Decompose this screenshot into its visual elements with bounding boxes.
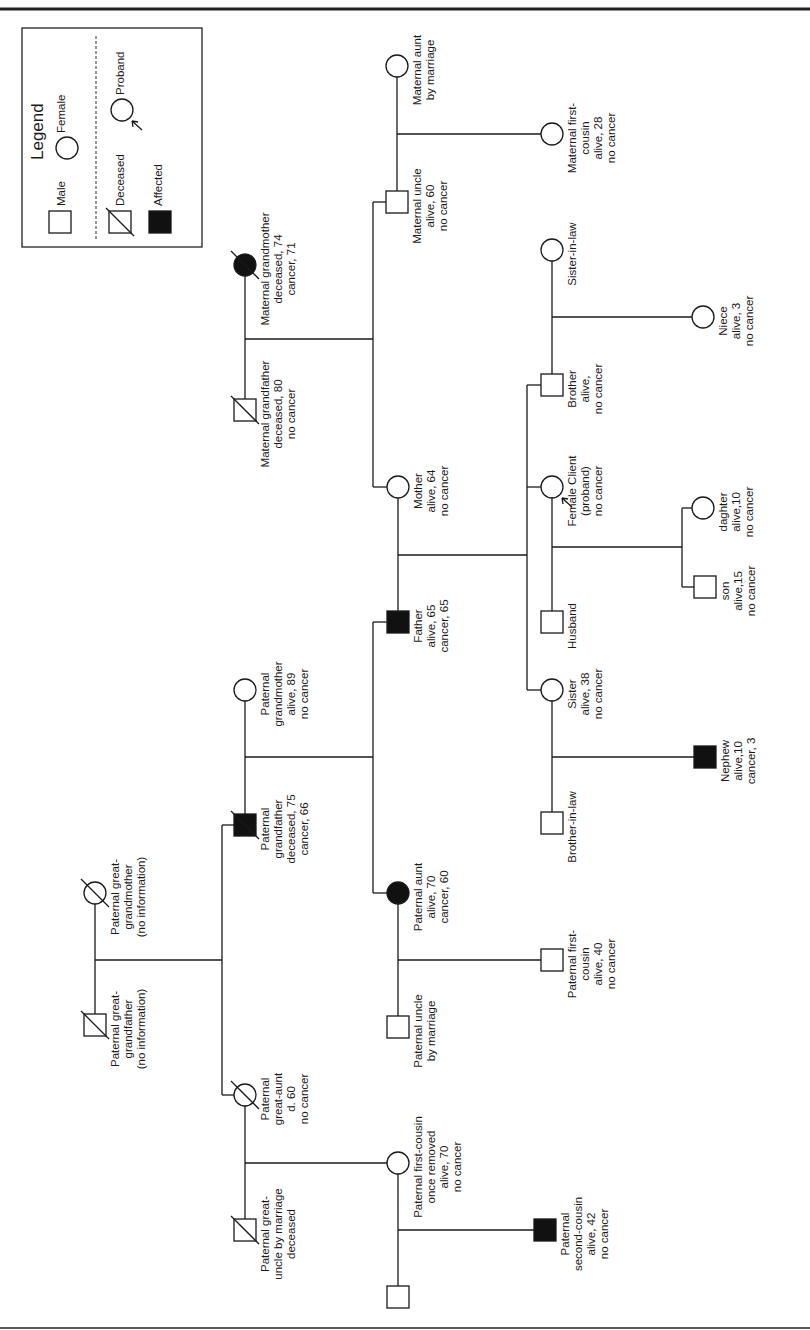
individual-husband: Husband (541, 603, 578, 649)
individual-mgm: Maternal grandmotherdeceased, 74cancer, … (231, 212, 297, 325)
individual-label: Nephewalive,10cancer, 3 (719, 738, 757, 785)
individual-psc: Paternalsecond-cousinalive, 42no cancer (534, 1197, 610, 1271)
individual-label: Paternal auntalive, 70cancer, 60 (412, 862, 450, 931)
individual-pga: Paternalgreat-auntd. 60no cancer (231, 1072, 310, 1125)
individual-proband: Female Client(proband)no cancer (541, 455, 604, 527)
individual-label: Maternal auntby marriage (411, 34, 436, 105)
individual-son: sonalive,15no cancer (694, 566, 757, 617)
individual-mother: Motheralive, 64no cancer (387, 466, 450, 517)
individual-pgf: Paternalgrandfatherdeceased, 75cancer, 6… (231, 794, 310, 863)
male-symbol-icon (541, 374, 563, 396)
pedigree-diagram: Legend Male Female Deceased Proband Affe… (0, 0, 810, 1330)
individual-label: daghteralive,10no cancer (717, 487, 755, 538)
individual-nephew: Nephewalive,10cancer, 3 (694, 738, 757, 785)
individual-label: Paternal first-cousinalive, 40no cancer (566, 930, 617, 999)
individual-label: Paternal great-grandfather(no informatio… (109, 989, 147, 1070)
individual-pum: Paternal uncleby marriage (387, 994, 437, 1068)
individual-mam: Maternal auntby marriage (386, 34, 436, 105)
female-symbol-icon (541, 239, 563, 261)
legend-male-label: Male (55, 181, 67, 206)
female-affected-symbol-icon (387, 882, 409, 904)
pedigree-connectors (95, 66, 705, 1297)
individual-pgu: Paternal great-uncle by marriagedeceased (231, 1188, 297, 1279)
individual-label: Brotheralive,no cancer (566, 364, 604, 415)
female-symbol-icon (541, 679, 563, 701)
female-symbol-icon (386, 55, 408, 77)
individual-label: Maternal first-cousinalive, 28no cancer (566, 103, 617, 173)
individual-label: Paternal great-uncle by marriagedeceased (259, 1188, 297, 1279)
individual-mfc: Maternal first-cousinalive, 28no cancer (541, 103, 617, 173)
individual-label: Paternalgrandmotheralive, 89no cancer (259, 661, 310, 726)
individual-label: Brother-in-law (566, 791, 578, 863)
legend-affected-label: Affected (152, 164, 164, 206)
legend: Legend Male Female Deceased Proband Affe… (22, 28, 202, 247)
individual-label: Motheralive, 64no cancer (412, 466, 450, 517)
male-symbol-icon (541, 949, 563, 971)
individual-label: Maternal grandfatherdeceased, 80no cance… (259, 360, 297, 467)
individual-label: Sisteralive, 38no cancer (566, 669, 604, 720)
male-symbol-icon (49, 211, 71, 233)
individual-label: Paternal first-cousinonce removedalive, … (412, 1116, 463, 1218)
male-symbol-icon (387, 1016, 409, 1038)
male-affected-symbol-icon (387, 611, 409, 633)
individual-brother: Brotheralive,no cancer (541, 364, 604, 415)
individual-label: sonalive,15no cancer (719, 566, 757, 617)
individual-label: Paternal great-grandmother(no informatio… (109, 857, 147, 938)
female-symbol-icon (56, 137, 78, 159)
male-symbol-icon (387, 1286, 409, 1308)
male-symbol-icon (541, 611, 563, 633)
legend-proband-label: Proband (114, 52, 126, 95)
individual-label: Niecealive, 3no cancer (717, 296, 755, 347)
individual-niece: Niecealive, 3no cancer (692, 296, 755, 347)
female-symbol-icon (541, 476, 563, 498)
male-symbol-icon (386, 191, 408, 213)
male-symbol-icon (694, 576, 716, 598)
female-symbol-icon (692, 306, 714, 328)
male-affected-symbol-icon (534, 1219, 556, 1241)
female-symbol-icon (387, 1152, 409, 1174)
female-symbol-icon (387, 476, 409, 498)
affected-symbol-icon (149, 211, 171, 233)
individual-label: Female Client(proband)no cancer (566, 455, 604, 527)
individual-mgf: Maternal grandfatherdeceased, 80no cance… (231, 360, 297, 467)
individual-label: Maternal unclealive, 60no cancer (411, 168, 449, 243)
legend-deceased-label: Deceased (114, 154, 126, 206)
individual-sil: Sister-in-law (541, 222, 578, 286)
legend-female-label: Female (55, 95, 67, 133)
individual-pggm: Paternal great-grandmother(no informatio… (81, 857, 147, 938)
male-affected-symbol-icon (694, 746, 716, 768)
individual-father: Fatheralive, 65cancer, 65 (387, 599, 450, 652)
individual-sister: Sisteralive, 38no cancer (541, 669, 604, 720)
male-symbol-icon (541, 812, 563, 834)
female-symbol-icon (541, 123, 563, 145)
individual-label: Paternalsecond-cousinalive, 42no cancer (559, 1197, 610, 1271)
female-symbol-icon (234, 679, 256, 701)
proband-symbol-icon (111, 99, 133, 121)
individual-label: Maternal grandmotherdeceased, 74cancer, … (259, 212, 297, 325)
individual-label: Paternal uncleby marriage (412, 994, 437, 1068)
individual-paunt: Paternal auntalive, 70cancer, 60 (387, 862, 450, 931)
individual-label: Sister-in-law (566, 222, 578, 286)
individual-label: Paternalgreat-auntd. 60no cancer (259, 1072, 310, 1125)
individual-daughter: daghteralive,10no cancer (692, 487, 755, 538)
individual-bil: Brother-in-law (541, 791, 578, 863)
individual-label: Husband (566, 603, 578, 649)
individual-label: Fatheralive, 65cancer, 65 (412, 599, 450, 652)
individual-label: Paternalgrandfatherdeceased, 75cancer, 6… (259, 794, 310, 863)
individual-pfcor_sp (387, 1286, 409, 1308)
individual-pfc: Paternal first-cousinalive, 40no cancer (541, 930, 617, 999)
individual-mu: Maternal unclealive, 60no cancer (386, 168, 449, 243)
individual-pggf: Paternal great-grandfather(no informatio… (81, 989, 147, 1070)
female-symbol-icon (692, 497, 714, 519)
legend-title: Legend (28, 103, 47, 160)
